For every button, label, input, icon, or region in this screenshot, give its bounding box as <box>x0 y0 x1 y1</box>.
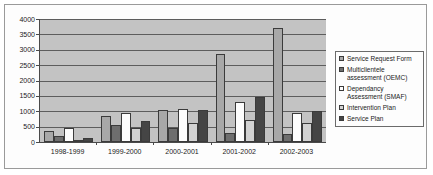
bar <box>141 121 151 142</box>
bar <box>44 131 54 142</box>
y-axis-tick-label: 1000 <box>7 108 35 115</box>
legend-item: Dependancy Assessment (SMAF) <box>338 85 421 101</box>
y-axis-tick-label: 4000 <box>7 16 35 23</box>
plot-area <box>39 19 326 143</box>
chart-legend: Service Request FormMulticlientele asses… <box>335 51 424 127</box>
y-axis-tick-mark <box>36 50 39 51</box>
bar <box>216 54 226 142</box>
bar <box>178 109 188 142</box>
bar <box>54 136 64 142</box>
bar <box>83 138 93 142</box>
x-axis-category-label: 2000-2001 <box>153 148 210 156</box>
chart-panel: Service Request FormMulticlientele asses… <box>4 4 427 169</box>
bar <box>64 128 74 142</box>
bar <box>225 133 235 142</box>
legend-swatch-icon <box>339 105 344 110</box>
bar <box>235 102 245 142</box>
bar <box>283 134 293 142</box>
y-axis-tick-label: 500 <box>7 123 35 130</box>
legend-item-label: Dependancy Assessment (SMAF) <box>347 85 407 101</box>
legend-item-label: Multiclientele assessment (OEMC) <box>347 66 407 82</box>
y-axis-tick-mark <box>36 19 39 20</box>
bar <box>292 113 302 142</box>
bar <box>273 28 283 142</box>
legend-item: Multiclientele assessment (OEMC) <box>338 66 421 82</box>
x-axis-category-label: 1998-1999 <box>39 148 96 156</box>
bar <box>158 110 168 142</box>
bar <box>312 111 322 142</box>
y-axis-tick-label: 2500 <box>7 62 35 69</box>
x-axis-tick-mark <box>268 142 269 145</box>
y-axis-tick-label: 0 <box>7 139 35 146</box>
y-axis-tick-label: 3000 <box>7 46 35 53</box>
bar <box>111 125 121 142</box>
legend-item: Service Request Form <box>338 55 421 63</box>
legend-item-label: Intervention Plan <box>347 104 396 112</box>
y-axis-tick-label: 1500 <box>7 92 35 99</box>
y-axis-tick-label: 2000 <box>7 77 35 84</box>
y-axis-tick-mark <box>36 142 39 143</box>
legend-item: Intervention Plan <box>338 104 421 112</box>
bar <box>245 120 255 142</box>
bar <box>121 113 131 142</box>
x-axis-category-label: 2002-2003 <box>268 148 325 156</box>
y-axis-tick-mark <box>36 65 39 66</box>
x-axis-tick-mark <box>96 142 97 145</box>
legend-item-label: Service Request Form <box>347 55 412 63</box>
y-axis-tick-mark <box>36 111 39 112</box>
bar-group <box>40 19 97 142</box>
bar <box>168 128 178 142</box>
legend-swatch-icon <box>339 67 344 72</box>
bar <box>302 123 312 142</box>
x-axis-tick-mark <box>153 142 154 145</box>
y-axis-tick-mark <box>36 127 39 128</box>
x-axis-tick-mark <box>211 142 212 145</box>
y-axis-tick-mark <box>36 34 39 35</box>
bar <box>131 128 141 142</box>
y-axis-tick-mark <box>36 96 39 97</box>
bar-group <box>212 19 269 142</box>
bar-group <box>154 19 211 142</box>
legend-item: Service Plan <box>338 115 421 123</box>
bar <box>101 116 111 142</box>
legend-swatch-icon <box>339 116 344 121</box>
y-axis-tick-label: 3500 <box>7 31 35 38</box>
bar-group <box>97 19 154 142</box>
x-axis-category-label: 2001-2002 <box>211 148 268 156</box>
bar <box>188 123 198 142</box>
legend-item-label: Service Plan <box>347 115 384 123</box>
legend-swatch-icon <box>339 86 344 91</box>
y-axis-tick-mark <box>36 81 39 82</box>
bar-group <box>269 19 326 142</box>
x-axis-category-label: 1999-2000 <box>96 148 153 156</box>
bar <box>198 110 208 142</box>
bar <box>255 97 265 142</box>
legend-swatch-icon <box>339 56 344 61</box>
bar <box>74 140 84 142</box>
